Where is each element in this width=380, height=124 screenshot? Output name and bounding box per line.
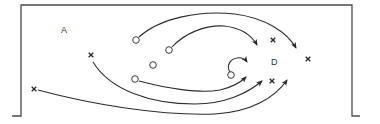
- zone-label-a: A: [61, 25, 67, 35]
- field-frame: [12, 5, 360, 116]
- cross-player-icon: [306, 57, 311, 62]
- circle-players: [132, 37, 235, 83]
- cross-player-icon: [271, 38, 276, 43]
- cross-player-icon: [89, 53, 94, 58]
- circle-player-icon: [150, 62, 157, 69]
- circle-player-icon: [166, 47, 173, 54]
- circle-player-icon: [132, 76, 139, 83]
- movement-arrow-o5: [228, 58, 247, 72]
- zone-label-d: D: [271, 57, 278, 67]
- movement-arrow-o1: [139, 13, 296, 48]
- cross-player-icon: [32, 87, 37, 92]
- play-diagram: A D: [0, 0, 380, 124]
- circle-player-icon: [133, 37, 140, 44]
- cross-players: [32, 38, 311, 92]
- movement-arrow-x2: [38, 80, 287, 114]
- movement-arrow-o2: [172, 26, 257, 47]
- movement-arrow-x1: [93, 62, 262, 104]
- circle-player-icon: [228, 72, 235, 79]
- movement-arrow-o4: [139, 77, 246, 91]
- cross-player-icon: [270, 79, 275, 84]
- movement-paths: [38, 13, 296, 114]
